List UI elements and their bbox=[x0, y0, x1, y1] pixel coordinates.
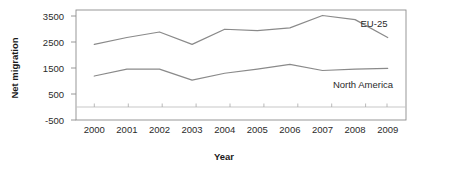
net-migration-line-chart: 3500 2500 1500 500 -500 bbox=[0, 0, 450, 173]
y-tick-label-2500: 2500 bbox=[43, 37, 64, 48]
x-tick-label-2002: 2002 bbox=[149, 124, 170, 135]
x-tick-label-2003: 2003 bbox=[182, 124, 203, 135]
x-tick-label-2007: 2007 bbox=[312, 124, 333, 135]
y-tick-label-3500: 3500 bbox=[43, 11, 64, 22]
x-tick-label-2000: 2000 bbox=[84, 124, 105, 135]
x-tick-label-2001: 2001 bbox=[116, 124, 137, 135]
y-tick-label-1500: 1500 bbox=[43, 63, 64, 74]
x-axis-tick-labels: 2000200120022003200420052006200720082009 bbox=[84, 124, 399, 135]
chart-screenshot: 3500 2500 1500 500 -500 bbox=[0, 0, 450, 173]
x-tick-label-2009: 2009 bbox=[377, 124, 398, 135]
plot-area-frame bbox=[76, 10, 406, 120]
y-tick-label-500: 500 bbox=[48, 89, 64, 100]
y-axis-ticks bbox=[71, 16, 76, 120]
x-tick-label-2008: 2008 bbox=[345, 124, 366, 135]
x-tick-label-2005: 2005 bbox=[247, 124, 268, 135]
x-tick-label-2004: 2004 bbox=[214, 124, 235, 135]
x-tick-label-2006: 2006 bbox=[279, 124, 300, 135]
series-label-north-america: North America bbox=[333, 79, 394, 90]
y-tick-label-minus500: -500 bbox=[45, 115, 64, 126]
series-label-eu25: EU-25 bbox=[361, 18, 388, 29]
x-axis-title: Year bbox=[214, 151, 234, 162]
series-line-eu25 bbox=[94, 16, 387, 45]
y-axis-title: Net migration bbox=[9, 37, 20, 98]
x-axis-minor-ticks bbox=[94, 104, 387, 108]
series-line-north-america bbox=[94, 64, 387, 80]
